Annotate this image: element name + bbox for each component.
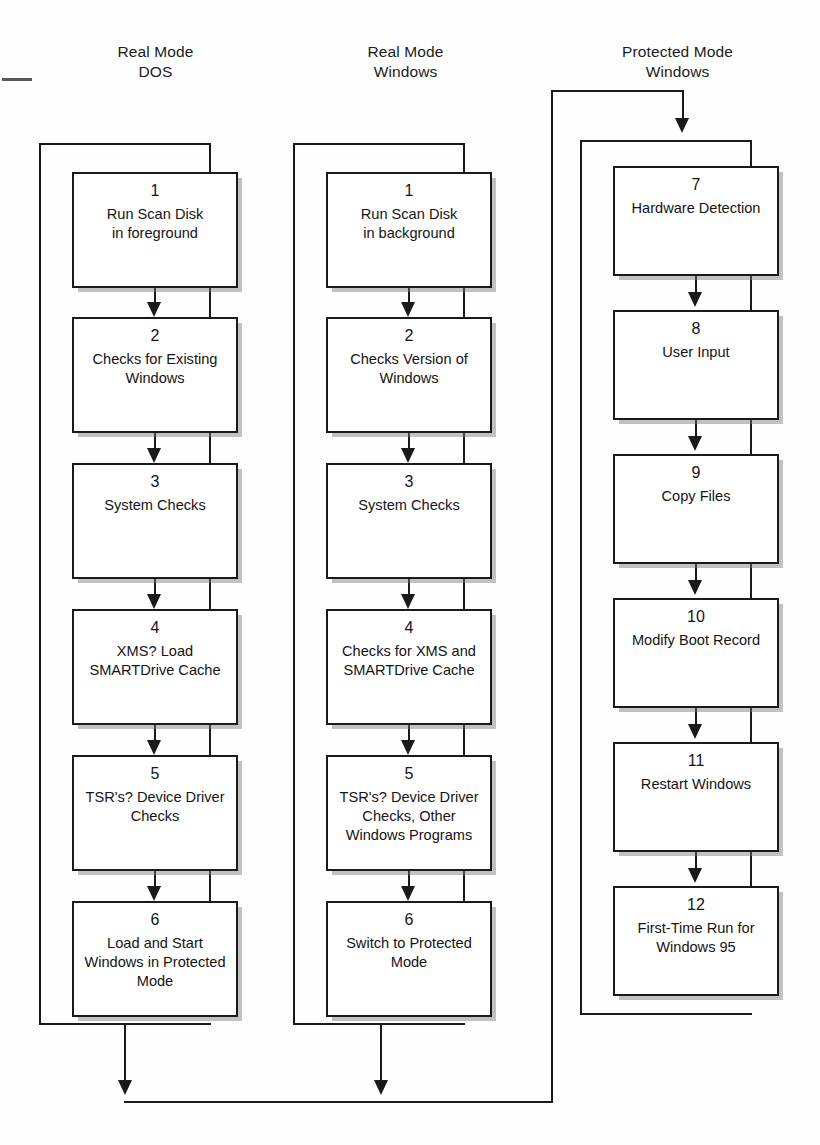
node-number: 2 <box>405 326 414 346</box>
node-2-checks-for-existing-windows[interactable]: 2 Checks for Existing Windows <box>72 317 238 433</box>
node-label: System Checks <box>99 496 210 515</box>
node-number: 11 <box>688 751 705 771</box>
arrowhead-9-to-10-column-3 <box>688 580 702 595</box>
loop-left-rail-column-2 <box>293 143 295 1025</box>
node-label: Restart Windows <box>636 775 756 794</box>
scan-crop-mark <box>2 78 32 81</box>
bottom-bus-line <box>124 1101 553 1103</box>
exit-line-column-1 <box>124 1023 126 1083</box>
node-number: 3 <box>405 472 414 492</box>
node-4-checks-for-xms-and-smartdrive-cache[interactable]: 4 Checks for XMS and SMARTDrive Cache <box>326 609 492 725</box>
column-header-real-mode-windows: Real Mode Windows <box>318 42 493 82</box>
arrowhead-5-to-6-column-1 <box>147 886 161 901</box>
node-9-copy-files[interactable]: 9 Copy Files <box>613 454 779 564</box>
node-number: 10 <box>687 607 705 627</box>
node-6-load-and-start-windows-protected-mode[interactable]: 6 Load and Start Windows in Protected Mo… <box>72 901 238 1017</box>
node-number: 3 <box>151 472 160 492</box>
node-number: 9 <box>692 463 701 483</box>
node-12-first-time-run-for-windows-95[interactable]: 12 First-Time Run for Windows 95 <box>613 886 779 996</box>
node-number: 5 <box>151 764 160 784</box>
node-1-run-scan-disk-background[interactable]: 1 Run Scan Disk in background <box>326 172 492 288</box>
node-label: Checks Version of Windows <box>345 350 473 388</box>
node-3-system-checks[interactable]: 3 System Checks <box>326 463 492 579</box>
node-label: Modify Boot Record <box>627 631 765 650</box>
node-number: 6 <box>151 910 160 930</box>
feed-top-to-column-3 <box>551 90 683 92</box>
node-number: 7 <box>692 175 701 195</box>
loop-left-rail-column-1 <box>39 143 41 1025</box>
node-label: User Input <box>657 343 734 362</box>
column-header-real-mode-dos: Real Mode DOS <box>68 42 243 82</box>
loop-bottom-column-2 <box>293 1023 465 1025</box>
node-5-tsr-device-driver-checks[interactable]: 5 TSR's? Device Driver Checks <box>72 755 238 871</box>
arrowhead-exit-column-1 <box>118 1080 132 1095</box>
node-5-tsr-device-driver-checks-other-windows-programs[interactable]: 5 TSR's? Device Driver Checks, Other Win… <box>326 755 492 871</box>
node-number: 4 <box>151 618 160 638</box>
arrowhead-5-to-6-column-2 <box>401 886 415 901</box>
arrowhead-exit-column-2 <box>374 1080 388 1095</box>
arrowhead-2-to-3-column-2 <box>401 448 415 463</box>
node-2-checks-version-of-windows[interactable]: 2 Checks Version of Windows <box>326 317 492 433</box>
node-number: 4 <box>405 618 414 638</box>
node-label: Copy Files <box>657 487 736 506</box>
node-6-switch-to-protected-mode[interactable]: 6 Switch to Protected Mode <box>326 901 492 1017</box>
node-label: XMS? Load SMARTDrive Cache <box>84 642 225 680</box>
arrowhead-7-to-8-column-3 <box>688 292 702 307</box>
node-label: Run Scan Disk in foreground <box>102 205 209 243</box>
node-label: TSR's? Device Driver Checks <box>80 788 229 826</box>
exit-line-column-2 <box>380 1023 382 1083</box>
arrowhead-2-to-3-column-1 <box>147 448 161 463</box>
node-number: 2 <box>151 326 160 346</box>
node-number: 8 <box>692 319 701 339</box>
column-header-protected-mode-windows: Protected Mode Windows <box>580 42 775 82</box>
arrowhead-1-to-2-column-2 <box>401 302 415 317</box>
arrowhead-11-to-12-column-3 <box>688 868 702 883</box>
arrowhead-3-to-4-column-1 <box>147 594 161 609</box>
node-10-modify-boot-record[interactable]: 10 Modify Boot Record <box>613 598 779 708</box>
node-label: System Checks <box>353 496 464 515</box>
flowchart-canvas: Real Mode DOS Real Mode Windows Protecte… <box>0 0 820 1145</box>
node-number: 6 <box>405 910 414 930</box>
node-3-system-checks[interactable]: 3 System Checks <box>72 463 238 579</box>
arrowhead-feed-into-node-7 <box>675 118 689 133</box>
feed-riser-to-column-3 <box>551 90 553 1103</box>
node-11-restart-windows[interactable]: 11 Restart Windows <box>613 742 779 852</box>
arrowhead-4-to-5-column-1 <box>147 740 161 755</box>
node-label: Checks for XMS and SMARTDrive Cache <box>337 642 481 680</box>
node-label: Hardware Detection <box>627 199 766 218</box>
node-number: 5 <box>405 764 414 784</box>
node-number: 12 <box>687 895 705 915</box>
arrowhead-3-to-4-column-2 <box>401 594 415 609</box>
node-label: Switch to Protected Mode <box>341 934 477 972</box>
node-7-hardware-detection[interactable]: 7 Hardware Detection <box>613 166 779 276</box>
node-label: Load and Start Windows in Protected Mode <box>79 934 230 991</box>
arrowhead-4-to-5-column-2 <box>401 740 415 755</box>
node-4-xms-load-smartdrive-cache[interactable]: 4 XMS? Load SMARTDrive Cache <box>72 609 238 725</box>
node-label: First-Time Run for Windows 95 <box>632 919 759 957</box>
node-number: 1 <box>405 181 414 201</box>
node-1-run-scan-disk-foreground[interactable]: 1 Run Scan Disk in foreground <box>72 172 238 288</box>
arrowhead-1-to-2-column-1 <box>147 302 161 317</box>
node-label: Checks for Existing Windows <box>88 350 223 388</box>
loop-left-rail-column-3 <box>580 140 582 1015</box>
loop-return-path-column-3 <box>580 140 752 168</box>
node-label: Run Scan Disk in background <box>356 205 463 243</box>
node-8-user-input[interactable]: 8 User Input <box>613 310 779 420</box>
arrowhead-8-to-9-column-3 <box>688 436 702 451</box>
node-label: TSR's? Device Driver Checks, Other Windo… <box>334 788 483 845</box>
arrowhead-10-to-11-column-3 <box>688 724 702 739</box>
loop-bottom-column-3 <box>580 1013 752 1015</box>
node-number: 1 <box>151 181 160 201</box>
